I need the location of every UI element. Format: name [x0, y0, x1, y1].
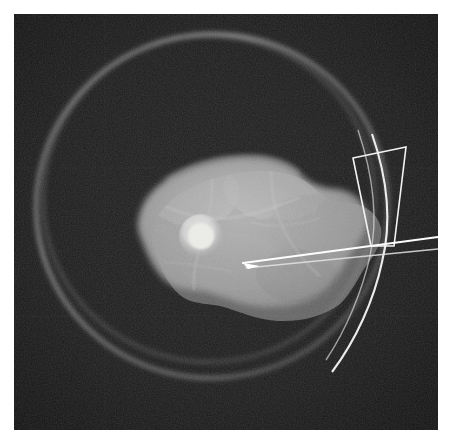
scan-image-field: [14, 14, 438, 430]
scan-render-surface: [14, 14, 438, 430]
nodule-core-icon: [188, 223, 214, 249]
scan-viewer: [0, 0, 452, 444]
focal-nodule: [179, 214, 223, 258]
